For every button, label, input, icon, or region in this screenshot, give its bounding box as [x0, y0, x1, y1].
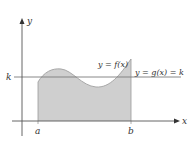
g-line-label: y = g(x) = k [134, 68, 184, 77]
area-diagram: y x k a b y = f(x) y = g(x) = k [0, 0, 192, 144]
a-label: a [35, 126, 40, 136]
f-curve-label: y = f(x) [97, 60, 128, 69]
x-axis-label: x [182, 116, 187, 126]
x-axis-arrow-icon [174, 119, 180, 124]
y-axis-label: y [26, 16, 33, 26]
y-axis-arrow-icon [20, 18, 25, 24]
b-label: b [128, 126, 134, 136]
k-label: k [6, 72, 11, 82]
